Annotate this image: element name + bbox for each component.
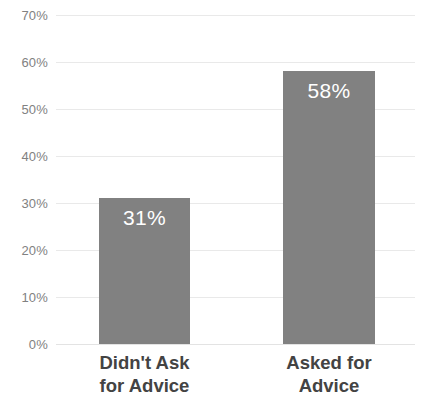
y-axis-tick-label: 30%	[0, 197, 48, 210]
x-axis-category-label: Asked forAdvice	[283, 352, 375, 397]
plot-area: 31%58%	[56, 15, 415, 344]
bar-group: 31%	[99, 15, 190, 344]
y-axis-tick-label: 60%	[0, 56, 48, 69]
y-axis-tick-label: 50%	[0, 103, 48, 116]
y-axis-tick-label: 0%	[0, 338, 48, 351]
y-axis: 0%10%20%30%40%50%60%70%	[0, 15, 48, 344]
x-axis-category-label: Didn't Askfor Advice	[99, 352, 190, 397]
gridline-0	[56, 344, 415, 345]
bar-value-label: 31%	[99, 206, 190, 229]
y-axis-tick-label: 20%	[0, 244, 48, 257]
x-axis-category-label-line: Advice	[283, 375, 375, 398]
bar-group: 58%	[283, 15, 375, 344]
bar-chart: 0%10%20%30%40%50%60%70% 31%58% Didn't As…	[0, 0, 422, 410]
bar-value-label: 58%	[283, 79, 375, 102]
bar[interactable]: 58%	[283, 71, 375, 344]
y-axis-tick-label: 70%	[0, 9, 48, 22]
x-axis-category-label-line: Asked for	[283, 352, 375, 375]
bar[interactable]: 31%	[99, 198, 190, 344]
y-axis-tick-label: 40%	[0, 150, 48, 163]
y-axis-tick-label: 10%	[0, 291, 48, 304]
x-axis-category-label-line: Didn't Ask	[99, 352, 190, 375]
x-axis-category-label-line: for Advice	[99, 375, 190, 398]
